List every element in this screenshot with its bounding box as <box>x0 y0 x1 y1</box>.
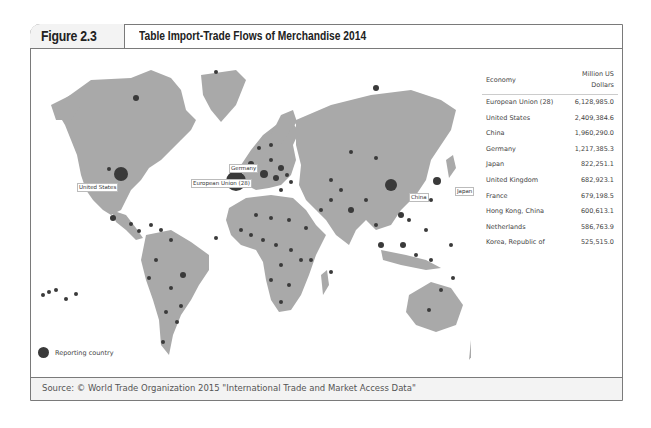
table-row: United States2,409,384.6 <box>482 111 618 127</box>
map-label-japan: Japan <box>455 187 474 196</box>
map-label-european-union: European Union (28) <box>191 179 252 188</box>
new-zealand-shape <box>469 340 471 360</box>
marker-japan <box>433 177 441 185</box>
africa-shape <box>226 195 326 312</box>
table-row: France679,198.5 <box>482 189 618 205</box>
central-america-shape <box>111 210 143 240</box>
marker-china <box>385 179 397 191</box>
legend-label: Reporting country <box>55 349 114 357</box>
source-text: Source: © World Trade Organization 2015 … <box>42 383 416 393</box>
table-row: Netherlands586,763.9 <box>482 220 618 236</box>
reporting-country-dot-icon <box>38 347 49 358</box>
figure-label: Figure 2.3 <box>41 27 97 44</box>
figure-title-bar: Table Import-Trade Flows of Merchandise … <box>125 24 623 49</box>
table-row: United Kingdom682,923.1 <box>482 173 618 189</box>
asia-shape <box>296 90 456 245</box>
marker-united-states <box>114 167 128 181</box>
map-label-germany: Germany <box>229 164 258 173</box>
japan-shape <box>446 155 456 178</box>
header-value: Million US Dollars <box>582 69 618 94</box>
figure-title: Table Import-Trade Flows of Merchandise … <box>139 29 366 43</box>
table-row: Hong Kong, China600,613.1 <box>482 204 618 220</box>
map-label-united-states: United States <box>77 183 118 192</box>
madagascar-shape <box>321 270 329 295</box>
figure-label-box: Figure 2.3 <box>30 24 125 49</box>
import-table: Economy Million US Dollars European Unio… <box>482 62 618 251</box>
table-row: China1,960,290.0 <box>482 126 618 142</box>
south-america-shape <box>141 230 209 355</box>
source-bar: Source: © World Trade Organization 2015 … <box>31 377 622 400</box>
table-row: Japan822,251.1 <box>482 157 618 173</box>
continents <box>51 70 471 360</box>
north-america-shape <box>59 70 196 215</box>
marker-germany <box>260 170 268 178</box>
greenland-shape <box>201 70 246 122</box>
header-economy: Economy <box>482 76 516 94</box>
map-label-china: China <box>409 193 429 202</box>
australia-shape <box>406 282 463 332</box>
world-map <box>31 50 471 370</box>
map-legend: Reporting country <box>38 347 114 358</box>
table-row: European Union (28)6,128,985.0 <box>482 95 618 111</box>
table-row: Germany1,217,385.3 <box>482 142 618 158</box>
table-header: Economy Million US Dollars <box>482 62 618 95</box>
table-row: Korea, Republic of525,515.0 <box>482 235 618 251</box>
